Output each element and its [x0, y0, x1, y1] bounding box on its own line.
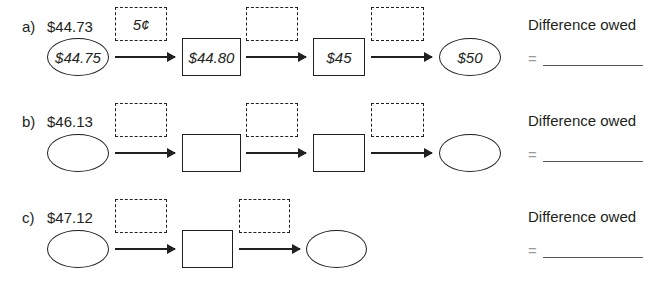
jump-box-1[interactable] [115, 103, 167, 137]
problem-amount: $46.13 [47, 113, 93, 130]
jump-box-1[interactable] [115, 199, 167, 233]
equals-sign: = [528, 146, 537, 163]
end-oval[interactable] [439, 134, 501, 172]
step-box-2[interactable]: $45 [313, 38, 365, 76]
answer-line[interactable] [543, 257, 643, 258]
step-box-2[interactable] [313, 134, 365, 172]
problem-amount: $44.73 [47, 18, 93, 35]
start-oval[interactable] [47, 230, 109, 268]
problem-letter: a) [22, 18, 35, 35]
jump-box-3[interactable] [371, 7, 424, 41]
difference-label: Difference owed [528, 112, 636, 129]
answer-line[interactable] [543, 65, 643, 66]
jump-box-2[interactable] [239, 199, 290, 233]
difference-label: Difference owed [528, 208, 636, 225]
end-oval[interactable] [306, 230, 367, 268]
jump-box-2[interactable] [246, 103, 298, 137]
jump-box-3[interactable] [371, 103, 424, 137]
arrow-icon [115, 152, 175, 154]
difference-label: Difference owed [528, 16, 636, 33]
problem-letter: c) [22, 209, 35, 226]
equals-sign: = [528, 50, 537, 67]
step-box-1[interactable]: $44.80 [182, 38, 241, 76]
problem-amount: $47.12 [47, 209, 93, 226]
arrow-icon [371, 56, 432, 58]
arrow-icon [246, 152, 306, 154]
arrow-icon [115, 248, 175, 250]
jump-box-2[interactable] [246, 7, 298, 41]
arrow-icon [239, 248, 300, 250]
arrow-icon [115, 56, 175, 58]
arrow-icon [371, 152, 432, 154]
problem-letter: b) [22, 113, 35, 130]
step-box-1[interactable] [182, 134, 241, 172]
start-oval[interactable]: $44.75 [47, 38, 109, 76]
jump-box-1[interactable]: 5¢ [115, 7, 167, 41]
equals-sign: = [528, 242, 537, 259]
arrow-icon [246, 56, 306, 58]
end-oval[interactable]: $50 [439, 38, 501, 76]
start-oval[interactable] [47, 134, 109, 172]
step-box-1[interactable] [182, 230, 233, 268]
answer-line[interactable] [543, 161, 643, 162]
